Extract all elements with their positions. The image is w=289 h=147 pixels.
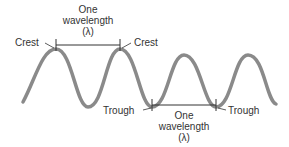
label-line: (λ) bbox=[63, 26, 114, 37]
sine-wave bbox=[23, 49, 276, 107]
label-line: (λ) bbox=[159, 132, 210, 143]
label-line: One bbox=[159, 110, 210, 121]
bottom-wavelength-label: One wavelength (λ) bbox=[159, 110, 210, 143]
trough-label-right: Trough bbox=[228, 105, 259, 116]
trough-label-left: Trough bbox=[103, 105, 134, 116]
top-wavelength-label: One wavelength (λ) bbox=[63, 4, 114, 37]
crest-label-right: Crest bbox=[134, 37, 158, 48]
label-line: wavelength bbox=[159, 121, 210, 132]
crest-label-left: Crest bbox=[15, 37, 39, 48]
label-line: One bbox=[63, 4, 114, 15]
wave-diagram bbox=[0, 0, 289, 147]
top-wavelength-bracket bbox=[56, 39, 120, 51]
label-line: wavelength bbox=[63, 15, 114, 26]
